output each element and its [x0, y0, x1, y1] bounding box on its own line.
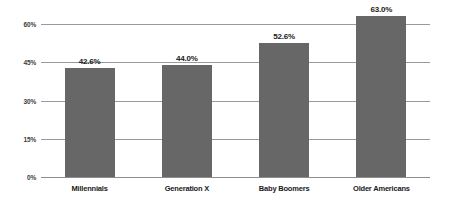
- bar-value-label: 63.0%: [336, 5, 426, 14]
- plot-area: 42.6%44.0%52.6%63.0%: [41, 24, 430, 177]
- gridline-0%: [41, 177, 430, 178]
- bar[interactable]: [259, 43, 309, 177]
- x-axis-category-label: Millennials: [41, 184, 138, 193]
- bar-slot: 42.6%: [41, 24, 138, 177]
- x-axis-category-label: Generation X: [138, 184, 235, 193]
- bar-value-label: 52.6%: [239, 32, 329, 41]
- bar-value-label: 42.6%: [45, 57, 135, 66]
- bar[interactable]: [65, 68, 115, 177]
- bar-chart: 42.6%44.0%52.6%63.0% 0%15%30%45%60% Mill…: [0, 0, 450, 212]
- y-axis-tick-label: 15%: [8, 135, 36, 142]
- bar-value-label: 44.0%: [142, 54, 232, 63]
- bar[interactable]: [356, 16, 406, 177]
- bar[interactable]: [162, 65, 212, 177]
- x-axis-category-label: Older Americans: [333, 184, 430, 193]
- x-axis: MillennialsGeneration XBaby BoomersOlder…: [41, 184, 430, 204]
- y-axis-tick-label: 0%: [8, 174, 36, 181]
- bar-slot: 63.0%: [333, 24, 430, 177]
- bar-slot: 52.6%: [236, 24, 333, 177]
- y-axis-tick-label: 60%: [8, 21, 36, 28]
- y-axis-tick-label: 30%: [8, 97, 36, 104]
- x-axis-category-label: Baby Boomers: [236, 184, 333, 193]
- y-axis-tick-label: 45%: [8, 59, 36, 66]
- bar-slot: 44.0%: [138, 24, 235, 177]
